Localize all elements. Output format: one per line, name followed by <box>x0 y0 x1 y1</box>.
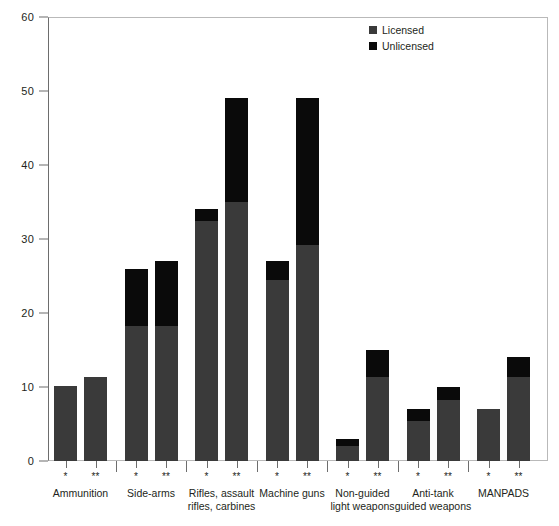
x-axis-group-label: Ammunition <box>53 487 108 500</box>
bar-segment-unlicensed <box>437 387 460 400</box>
chart-legend: LicensedUnlicensed <box>369 24 434 56</box>
y-axis-tick-label: 30 <box>21 233 34 245</box>
x-axis-group-label: Anti-tank guided weapons <box>395 487 471 513</box>
legend-label: Licensed <box>382 24 424 36</box>
y-axis: 0102030405060 <box>0 0 48 526</box>
bar <box>54 386 77 461</box>
x-axis-tick-mark <box>136 461 137 468</box>
bar-segment-licensed <box>366 377 389 461</box>
bar-segment-licensed <box>266 280 289 461</box>
y-axis-tick-mark <box>39 17 48 18</box>
x-axis-subcategory-label: * <box>64 471 68 482</box>
x-axis: ***Ammunition***Side-arms***Rifles, assa… <box>0 461 559 526</box>
x-axis-group-separator <box>116 461 117 472</box>
x-axis-tick-mark <box>519 461 520 468</box>
x-axis-group-separator <box>398 461 399 472</box>
x-axis-tick-mark <box>307 461 308 468</box>
bar-segment-licensed <box>225 202 248 461</box>
x-axis-subcategory-label: ** <box>92 471 100 482</box>
bar-segment-licensed <box>155 326 178 461</box>
x-axis-subcategory-label: ** <box>233 471 241 482</box>
x-axis-tick-mark <box>418 461 419 468</box>
x-axis-tick-mark <box>207 461 208 468</box>
x-axis-group-label: Non-guided light weapons <box>330 487 394 513</box>
bar-segment-unlicensed <box>266 261 289 280</box>
bar-segment-licensed <box>195 221 218 462</box>
y-axis-tick-label: 50 <box>21 85 34 97</box>
x-axis-tick-mark <box>96 461 97 468</box>
x-axis-subcategory-label: * <box>275 471 279 482</box>
legend-swatch-icon <box>369 26 377 34</box>
bar <box>407 409 430 461</box>
bar-chart: 0102030405060 ***Ammunition***Side-arms*… <box>0 0 559 526</box>
legend-swatch-icon <box>369 42 377 50</box>
legend-item: Licensed <box>369 24 434 36</box>
bar-segment-licensed <box>407 421 430 461</box>
x-axis-subcategory-label: * <box>205 471 209 482</box>
bar <box>84 377 107 461</box>
bar-segment-unlicensed <box>336 439 359 446</box>
bar-segment-licensed <box>477 409 500 461</box>
x-axis-tick-mark <box>448 461 449 468</box>
bar-segment-unlicensed <box>407 409 430 421</box>
bar <box>477 409 500 461</box>
bar <box>195 209 218 461</box>
x-axis-group-label: Side-arms <box>127 487 175 500</box>
bar-segment-licensed <box>296 245 319 461</box>
bar <box>296 98 319 461</box>
x-axis-tick-mark <box>277 461 278 468</box>
y-axis-tick-label: 40 <box>21 159 34 171</box>
x-axis-tick-mark <box>166 461 167 468</box>
bar-segment-unlicensed <box>296 98 319 245</box>
x-axis-tick-mark <box>237 461 238 468</box>
x-axis-group-label: Rifles, assault rifles, carbines <box>188 487 256 513</box>
bar <box>125 269 148 461</box>
bar-segment-unlicensed <box>155 261 178 325</box>
bar-segment-licensed <box>125 326 148 461</box>
x-axis-subcategory-label: ** <box>374 471 382 482</box>
x-axis-subcategory-label: ** <box>303 471 311 482</box>
x-axis-tick-mark <box>66 461 67 468</box>
x-axis-tick-mark <box>489 461 490 468</box>
x-axis-subcategory-label: * <box>346 471 350 482</box>
y-axis-tick-mark <box>39 387 48 388</box>
bar <box>266 261 289 461</box>
x-axis-group-label: MANPADS <box>478 487 529 500</box>
bar <box>437 387 460 461</box>
x-axis-group-label: Machine guns <box>259 487 324 500</box>
x-axis-tick-mark <box>348 461 349 468</box>
bar-segment-unlicensed <box>195 209 218 220</box>
y-axis-tick-mark <box>39 91 48 92</box>
y-axis-tick-mark <box>39 239 48 240</box>
bar-segment-unlicensed <box>125 269 148 327</box>
bar-segment-licensed <box>507 377 530 461</box>
bar <box>366 350 389 461</box>
x-axis-group-separator <box>186 461 187 472</box>
bar <box>155 261 178 461</box>
y-axis-tick-label: 20 <box>21 307 34 319</box>
legend-label: Unlicensed <box>382 40 434 52</box>
x-axis-tick-mark <box>378 461 379 468</box>
bar-segment-licensed <box>84 377 107 461</box>
legend-item: Unlicensed <box>369 40 434 52</box>
x-axis-subcategory-label: ** <box>515 471 523 482</box>
x-axis-group-separator <box>257 461 258 472</box>
x-axis-subcategory-label: ** <box>444 471 452 482</box>
x-axis-subcategory-label: * <box>134 471 138 482</box>
x-axis-group-separator <box>468 461 469 472</box>
x-axis-subcategory-label: * <box>416 471 420 482</box>
y-axis-tick-mark <box>39 165 48 166</box>
bar-segment-unlicensed <box>366 350 389 377</box>
bar-segment-unlicensed <box>225 98 248 202</box>
bar-segment-licensed <box>336 446 359 461</box>
bars-layer <box>48 17 548 461</box>
y-axis-tick-label: 60 <box>21 11 34 23</box>
bar-segment-unlicensed <box>507 357 530 377</box>
bar <box>336 439 359 461</box>
x-axis-subcategory-label: * <box>487 471 491 482</box>
y-axis-tick-label: 10 <box>21 381 34 393</box>
bar <box>225 98 248 461</box>
x-axis-subcategory-label: ** <box>162 471 170 482</box>
bar-segment-licensed <box>437 400 460 461</box>
bar <box>507 357 530 461</box>
